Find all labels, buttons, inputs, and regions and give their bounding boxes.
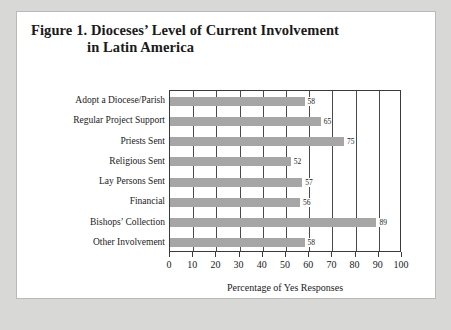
category-label: Regular Project Support — [37, 115, 165, 125]
category-label: Priests Sent — [37, 136, 165, 146]
category-label: Adopt a Diocese/Parish — [37, 95, 165, 105]
figure-title-line-2: in Latin America — [31, 39, 423, 56]
tick-label: 50 — [280, 259, 290, 270]
tick-label: 0 — [167, 259, 172, 270]
tick-mark — [285, 252, 286, 257]
bar-value-label: 75 — [347, 137, 356, 146]
bars-layer: 5865755257568958 — [170, 91, 400, 251]
x-axis-tick-marks — [169, 252, 401, 258]
tick-label: 90 — [373, 259, 383, 270]
bar — [170, 178, 302, 187]
category-axis-labels: Adopt a Diocese/ParishRegular Project Su… — [37, 90, 165, 252]
category-label: Lay Persons Sent — [37, 176, 165, 186]
bar-row: 58 — [170, 91, 400, 111]
bar-value-label: 57 — [305, 178, 314, 187]
bar-value-label: 56 — [302, 198, 311, 207]
bar-row: 57 — [170, 172, 400, 192]
tick-mark — [192, 252, 193, 257]
tick-label: 70 — [326, 259, 336, 270]
tick-mark — [239, 252, 240, 257]
bar — [170, 97, 305, 106]
tick-label: 20 — [210, 259, 220, 270]
bar — [170, 137, 344, 146]
category-label: Religious Sent — [37, 156, 165, 166]
bar-row: 56 — [170, 192, 400, 212]
tick-label: 80 — [350, 259, 360, 270]
tick-label: 10 — [187, 259, 197, 270]
tick-label: 60 — [303, 259, 313, 270]
bar-row: 65 — [170, 111, 400, 131]
category-label: Financial — [37, 196, 165, 206]
bar-row: 52 — [170, 152, 400, 172]
bar — [170, 198, 300, 207]
category-label: Bishops’ Collection — [37, 217, 165, 227]
bar-value-label: 58 — [307, 97, 316, 106]
tick-mark — [169, 252, 170, 257]
tick-mark — [331, 252, 332, 257]
bar — [170, 157, 291, 166]
tick-mark — [262, 252, 263, 257]
bar-value-label: 58 — [307, 238, 316, 247]
figure-panel: Figure 1. Dioceses’ Level of Current Inv… — [16, 11, 436, 299]
figure-title: Figure 1. Dioceses’ Level of Current Inv… — [31, 22, 423, 56]
category-label: Other Involvement — [37, 237, 165, 247]
bar-value-label: 52 — [293, 157, 302, 166]
tick-mark — [308, 252, 309, 257]
bar — [170, 238, 305, 247]
plot-area: 5865755257568958 — [169, 90, 401, 252]
bar — [170, 218, 376, 227]
tick-mark — [401, 252, 402, 257]
bar-value-label: 65 — [323, 117, 332, 126]
tick-mark — [355, 252, 356, 257]
bar-row: 89 — [170, 213, 400, 233]
bar — [170, 117, 321, 126]
tick-mark — [378, 252, 379, 257]
tick-label: 40 — [257, 259, 267, 270]
tick-label: 30 — [234, 259, 244, 270]
bar-row: 58 — [170, 233, 400, 253]
x-axis-title: Percentage of Yes Responses — [169, 282, 401, 293]
bar-value-label: 89 — [379, 218, 388, 227]
figure-title-line-1: Figure 1. Dioceses’ Level of Current Inv… — [31, 22, 339, 38]
tick-label: 100 — [394, 259, 409, 270]
tick-mark — [215, 252, 216, 257]
bar-row: 75 — [170, 132, 400, 152]
x-axis-tick-labels: 0102030405060708090100 — [169, 259, 401, 273]
